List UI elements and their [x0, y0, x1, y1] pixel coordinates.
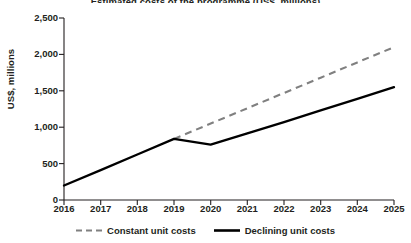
x-tick-label: 2025	[371, 203, 411, 214]
legend-swatch-dashed-icon	[76, 226, 102, 235]
legend-swatch-solid-icon	[214, 226, 240, 235]
legend-item-declining-unit-costs: Declining unit costs	[214, 225, 335, 236]
chart-figure: Estimated costs of the programme (US$, m…	[0, 0, 411, 243]
legend-label: Constant unit costs	[107, 225, 196, 236]
x-tick-labels: 2016 2017 2018 2019 2020 2021 2022 2023 …	[0, 0, 411, 243]
legend-label: Declining unit costs	[245, 225, 335, 236]
legend-item-constant-unit-costs: Constant unit costs	[76, 225, 196, 236]
chart-legend: Constant unit costs Declining unit costs	[0, 222, 411, 238]
